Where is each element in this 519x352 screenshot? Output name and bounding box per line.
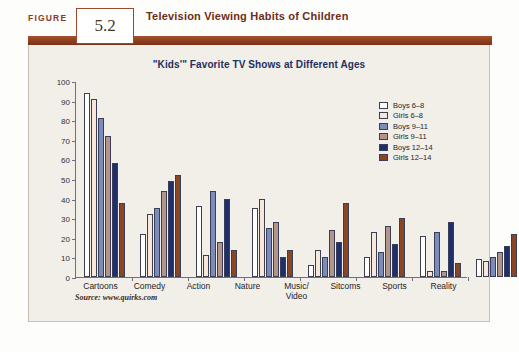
bar <box>434 232 440 277</box>
x-tick-label: Action <box>174 282 223 301</box>
bar <box>364 257 370 277</box>
legend-item: Girls 9–11 <box>379 132 433 143</box>
bar <box>511 234 517 277</box>
bar <box>280 257 286 277</box>
legend-swatch <box>379 102 388 109</box>
bar <box>105 136 111 277</box>
bar <box>175 175 181 277</box>
bar <box>455 263 461 277</box>
legend-swatch <box>379 154 388 161</box>
bar <box>504 246 510 277</box>
bar <box>91 99 97 277</box>
legend-item: Boys 9–11 <box>379 121 433 132</box>
bar <box>252 208 258 277</box>
chart-title: "Kids'" Favorite TV Shows at Different A… <box>29 59 489 70</box>
bar <box>483 261 489 277</box>
bar <box>168 181 174 277</box>
figure-title: Television Viewing Habits of Children <box>146 10 349 22</box>
bar <box>371 232 377 277</box>
bar <box>259 199 265 277</box>
bar <box>98 118 104 277</box>
bar <box>161 191 167 277</box>
bar-group <box>244 82 300 277</box>
bar <box>329 230 335 277</box>
figure-label: FIGURE <box>28 13 67 23</box>
bar <box>140 234 146 277</box>
bar-group <box>188 82 244 277</box>
bar <box>315 250 321 277</box>
legend-label: Boys 12–14 <box>393 143 433 152</box>
bar <box>476 259 482 277</box>
legend-item: Girls 12–14 <box>379 153 433 164</box>
legend-item: Boys 12–14 <box>379 142 433 153</box>
legend-swatch <box>379 144 388 151</box>
legend-swatch <box>379 112 388 119</box>
bar <box>203 255 209 277</box>
bar <box>154 208 160 277</box>
bar <box>273 222 279 277</box>
figure-number: 5.2 <box>94 16 115 36</box>
x-tick-label: Reality <box>419 282 468 301</box>
bar <box>84 93 90 277</box>
bar <box>224 199 230 277</box>
chart-legend: Boys 6–8Girls 6–8Boys 9–11Girls 9–11Boys… <box>375 97 437 166</box>
bar <box>196 206 202 277</box>
legend-swatch <box>379 133 388 140</box>
legend-swatch <box>379 123 388 130</box>
x-tick-label: Music/Video <box>272 282 321 301</box>
bar <box>217 242 223 277</box>
bar <box>385 226 391 277</box>
bar <box>441 271 447 277</box>
x-tick-label: Nature <box>223 282 272 301</box>
bar <box>210 191 216 277</box>
legend-label: Girls 6–8 <box>393 111 423 120</box>
bar <box>112 163 118 277</box>
legend-item: Boys 6–8 <box>379 100 433 111</box>
legend-label: Girls 9–11 <box>393 132 427 141</box>
bar <box>392 244 398 277</box>
bar-group <box>132 82 188 277</box>
bar <box>497 252 503 277</box>
bar <box>427 271 433 277</box>
x-tick-label: Sports <box>370 282 419 301</box>
bar-group <box>300 82 356 277</box>
bar <box>266 228 272 277</box>
bar <box>322 257 328 277</box>
figure-page: FIGURE 5.2 Television Viewing Habits of … <box>0 0 519 352</box>
bar <box>448 222 454 277</box>
bar-group <box>76 82 132 277</box>
y-tick-mark <box>72 278 76 279</box>
bar <box>308 265 314 277</box>
legend-label: Boys 6–8 <box>393 101 424 110</box>
bar <box>343 203 349 277</box>
figure-number-box: 5.2 <box>76 8 134 44</box>
legend-item: Girls 6–8 <box>379 111 433 122</box>
x-tick-label: Sitcoms <box>321 282 370 301</box>
bar <box>336 242 342 277</box>
bar <box>378 252 384 277</box>
chart-panel: "Kids'" Favorite TV Shows at Different A… <box>28 45 490 322</box>
bar <box>420 236 426 277</box>
bar <box>490 257 496 277</box>
bar <box>287 250 293 277</box>
bar <box>147 214 153 277</box>
source-note: Source: www.quirks.com <box>75 293 157 302</box>
bar <box>399 218 405 277</box>
x-axis <box>75 277 467 278</box>
legend-label: Girls 12–14 <box>393 153 431 162</box>
bar <box>231 250 237 277</box>
bar-group <box>468 82 519 277</box>
legend-label: Boys 9–11 <box>393 122 428 131</box>
bar <box>119 203 125 277</box>
